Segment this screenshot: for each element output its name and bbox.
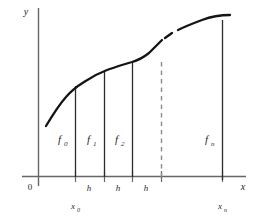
x-tick-label-x0-base: x [70,201,75,211]
integration-diagram: y x 0 f 0 f 1 f 2 f n h h h [0,0,255,224]
figure-canvas: y x 0 f 0 f 1 f 2 f n h h h [0,0,255,224]
spacing-label-3: h [144,183,149,193]
x-tick-label-x0: x 0 [70,201,80,213]
x-tick-label-x0-sub: 0 [77,207,80,213]
ordinate-label-fn-base: f [205,133,210,145]
spacing-label-1: h [87,183,92,193]
curve-segment-break [165,33,172,38]
ordinate-label-fn: f n [205,133,215,148]
ordinate-label-f0-sub: 0 [64,140,68,148]
x-tick-label-xn-base: x [217,201,222,211]
x-axis-label: x [240,181,246,192]
ordinate-label-f2-base: f [115,133,120,145]
x-tick-label-xn-sub: n [224,207,227,213]
x-tick-labels: x 0 x n [70,201,227,213]
function-curve [46,15,230,126]
spacing-label-2: h [116,183,121,193]
ordinate-label-f2-sub: 2 [121,140,125,148]
ordinate-label-fn-sub: n [211,140,215,148]
ordinate-label-f1: f 1 [87,133,97,148]
spacing-labels: h h h [87,183,149,193]
x-tick-label-xn: x n [217,201,227,213]
ordinate-label-f1-base: f [87,133,92,145]
ordinate-labels: f 0 f 1 f 2 f n [58,133,215,148]
axis-group [22,8,246,186]
ordinate-label-f0-base: f [58,133,63,145]
ordinate-label-f0: f 0 [58,133,68,148]
ordinate-lines [76,20,223,180]
ordinate-label-f2: f 2 [115,133,125,148]
origin-label: 0 [28,182,33,192]
y-axis-label: y [23,6,29,17]
ordinate-label-f1-sub: 1 [93,140,97,148]
